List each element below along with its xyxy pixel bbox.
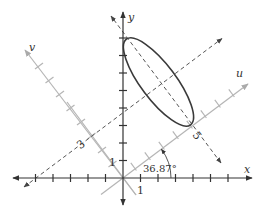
rotated-axes <box>35 48 248 195</box>
y-unit-label: 1 <box>109 156 116 169</box>
x-unit-label: 1 <box>137 184 144 197</box>
angle-label: 36.87° <box>143 163 177 174</box>
u-ticks <box>131 89 235 170</box>
v-tick-label: 3 <box>74 137 87 152</box>
u-tick-label: 5 <box>190 129 205 142</box>
v-axis-label: v <box>29 41 36 54</box>
v-axis-upper <box>67 49 136 195</box>
rotated-ellipse-diagram: x y u v 1 1 5 3 36.87° <box>0 0 264 212</box>
y-axis-label: y <box>127 11 135 24</box>
x-axis-label: x <box>244 163 251 176</box>
ellipse <box>112 29 204 136</box>
u-axis-label: u <box>236 67 243 80</box>
